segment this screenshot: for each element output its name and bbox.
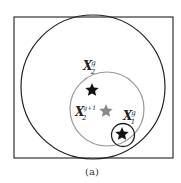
caption: (a) xyxy=(85,166,99,177)
star-x2g1-icon xyxy=(99,104,112,117)
star-x2g-icon xyxy=(85,83,98,96)
diagram: Xg2 Xg+12 Xg1 (a) xyxy=(0,0,181,183)
label-x2g1: Xg+12 xyxy=(74,104,96,122)
label-x2g: Xg2 xyxy=(82,59,96,76)
star-x1g-icon xyxy=(115,127,128,140)
